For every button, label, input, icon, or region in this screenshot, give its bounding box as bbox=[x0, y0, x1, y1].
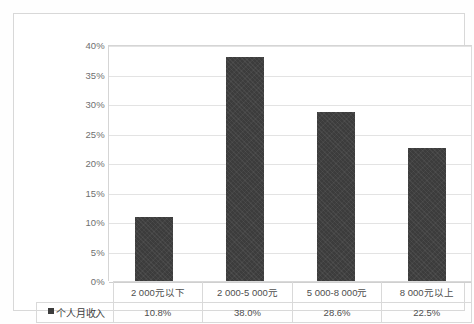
category-cell-1: 2 000-5 000元 bbox=[203, 282, 293, 303]
y-axis-labels: 40%35%30%25%20%15%10%5%0% bbox=[27, 14, 105, 310]
table-row-values: 个人月收入 10.8% 38.0% 28.6% 22.5% bbox=[37, 302, 472, 323]
bar-2 000-5 000元 bbox=[226, 57, 264, 281]
y-tick-label-25%: 25% bbox=[27, 128, 105, 139]
data-table: 2 000元以下 2 000-5 000元 5 000-8 000元 8 000… bbox=[36, 281, 472, 323]
bar-column bbox=[381, 45, 472, 281]
bar-5 000-8 000元 bbox=[317, 112, 355, 281]
bar-column bbox=[108, 45, 199, 281]
value-cell-2: 28.6% bbox=[292, 302, 382, 323]
category-cell-0: 2 000元以下 bbox=[113, 282, 203, 303]
bar-8 000元以上 bbox=[408, 148, 446, 281]
legend-label: 个人月收入 bbox=[56, 305, 105, 320]
value-cell-1: 38.0% bbox=[203, 302, 293, 323]
y-tick-label-35%: 35% bbox=[27, 69, 105, 80]
y-tick-label-30%: 30% bbox=[27, 99, 105, 110]
y-tick-label-20%: 20% bbox=[27, 158, 105, 169]
bar-2 000元以下 bbox=[135, 217, 173, 281]
table-row-categories: 2 000元以下 2 000-5 000元 5 000-8 000元 8 000… bbox=[37, 282, 472, 303]
chart-frame: 40%35%30%25%20%15%10%5%0% 2 000元以下 2 000… bbox=[13, 13, 465, 311]
bar-column bbox=[290, 45, 381, 281]
bar-column bbox=[199, 45, 290, 281]
legend-swatch-icon bbox=[48, 308, 54, 314]
bar-chart-figure: 40%35%30%25%20%15%10%5%0% 2 000元以下 2 000… bbox=[0, 0, 474, 324]
value-cell-3: 22.5% bbox=[382, 302, 472, 323]
table-corner-blank bbox=[37, 282, 114, 303]
category-cell-2: 5 000-8 000元 bbox=[292, 282, 382, 303]
y-tick-label-5%: 5% bbox=[27, 246, 105, 257]
y-tick-label-15%: 15% bbox=[27, 187, 105, 198]
value-cell-0: 10.8% bbox=[113, 302, 203, 323]
y-tick-label-40%: 40% bbox=[27, 40, 105, 51]
y-tick-label-10%: 10% bbox=[27, 217, 105, 228]
bars-layer bbox=[108, 45, 472, 281]
category-cell-3: 8 000元以上 bbox=[382, 282, 472, 303]
legend-entry: 个人月收入 bbox=[37, 302, 114, 323]
